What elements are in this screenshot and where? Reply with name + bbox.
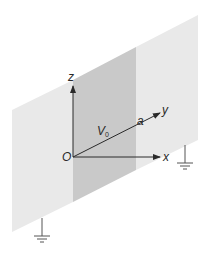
x-axis-label: x <box>162 150 170 164</box>
y-axis-label: y <box>161 103 169 117</box>
potential-strip-diagram: z y x O a V0 <box>0 0 207 257</box>
ground-left-icon <box>34 218 50 242</box>
z-axis-label: z <box>67 70 74 84</box>
width-label: a <box>137 114 144 128</box>
potential-subscript: 0 <box>105 131 109 138</box>
right-grounded-plane <box>136 15 198 170</box>
origin-label: O <box>62 150 71 164</box>
